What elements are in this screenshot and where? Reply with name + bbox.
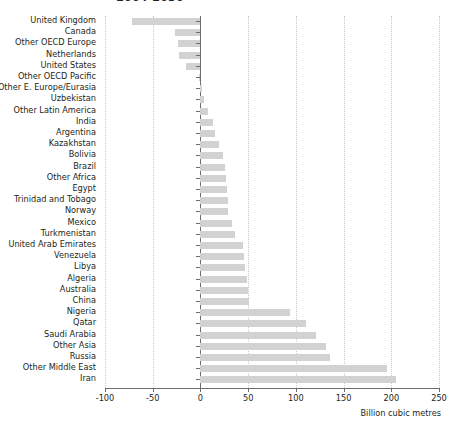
row-tick	[196, 55, 200, 56]
bar-row	[105, 38, 439, 49]
gas-production-change-chart: 2004-2030 United KingdomCanadaOther OECD…	[0, 0, 451, 428]
bar-egypt	[200, 186, 227, 193]
row-tick	[196, 335, 200, 336]
bar-row	[105, 72, 439, 83]
row-tick	[196, 200, 200, 201]
bar-row	[105, 251, 439, 262]
bar-row	[105, 162, 439, 173]
bar-row	[105, 296, 439, 307]
plot-area	[105, 16, 439, 388]
x-tick-0	[200, 388, 201, 392]
row-tick	[196, 323, 200, 324]
bar-brazil	[200, 164, 225, 171]
bar-turkmenistan	[200, 231, 234, 238]
row-tick	[196, 267, 200, 268]
x-tick-label--50: -50	[146, 393, 159, 403]
category-label-egypt: Egypt	[72, 183, 96, 194]
bar-row	[105, 195, 439, 206]
category-label-canada: Canada	[65, 26, 96, 37]
row-tick	[196, 32, 200, 33]
bar-row	[105, 330, 439, 341]
row-tick	[196, 167, 200, 168]
x-axis-title: Billion cubic metres	[361, 408, 442, 418]
bar-other-latin-america	[200, 108, 208, 115]
bar-row	[105, 307, 439, 318]
row-tick	[196, 301, 200, 302]
x-tick-50	[248, 388, 249, 392]
row-tick	[196, 279, 200, 280]
bar-row	[105, 106, 439, 117]
bar-other-asia	[200, 343, 326, 350]
row-tick	[196, 155, 200, 156]
category-label-other-africa: Other Africa	[47, 172, 96, 183]
bar-row	[105, 117, 439, 128]
category-label-mexico: Mexico	[67, 217, 96, 228]
bar-row	[105, 50, 439, 61]
row-tick	[196, 77, 200, 78]
row-tick	[196, 357, 200, 358]
x-tick-label--100: -100	[96, 393, 115, 403]
category-label-australia: Australia	[60, 284, 96, 295]
bar-row	[105, 128, 439, 139]
row-tick	[196, 122, 200, 123]
category-label-other-e-europe-eurasia: Other E. Europe/Eurasia	[0, 82, 96, 93]
bar-venezuela	[200, 253, 244, 260]
row-tick	[196, 99, 200, 100]
row-tick	[196, 346, 200, 347]
category-label-other-asia: Other Asia	[53, 340, 96, 351]
bar-bolivia	[200, 152, 223, 159]
bar-row	[105, 218, 439, 229]
category-label-other-oecd-europe: Other OECD Europe	[15, 37, 96, 48]
x-tick-label-100: 100	[288, 393, 304, 403]
bar-russia	[200, 354, 330, 361]
x-tick-100	[296, 388, 297, 392]
category-label-trinidad-and-tobago: Trinidad and Tobago	[14, 194, 96, 205]
x-tick-label-250: 250	[431, 393, 447, 403]
row-tick	[196, 290, 200, 291]
category-label-algeria: Algeria	[67, 273, 96, 284]
row-tick	[196, 189, 200, 190]
bar-row	[105, 318, 439, 329]
category-label-united-states: United States	[41, 60, 96, 71]
row-tick	[196, 43, 200, 44]
bar-row	[105, 374, 439, 385]
bar-row	[105, 94, 439, 105]
x-axis-line	[105, 388, 439, 389]
category-label-other-latin-america: Other Latin America	[14, 105, 96, 116]
category-axis-labels: United KingdomCanadaOther OECD EuropeNet…	[0, 16, 100, 388]
bar-argentina	[200, 130, 214, 137]
bar-row	[105, 274, 439, 285]
category-label-uzbekistan: Uzbekistan	[51, 93, 96, 104]
row-tick	[196, 368, 200, 369]
bar-china	[200, 298, 249, 305]
category-label-kazakhstan: Kazakhstan	[49, 138, 96, 149]
x-tick-label-50: 50	[243, 393, 253, 403]
bar-australia	[200, 287, 248, 294]
bar-row	[105, 139, 439, 150]
row-tick	[196, 21, 200, 22]
bar-row	[105, 27, 439, 38]
chart-title: 2004-2030	[0, 0, 300, 4]
bar-row	[105, 240, 439, 251]
category-label-iran: Iran	[80, 373, 96, 384]
category-label-libya: Libya	[74, 261, 96, 272]
bar-norway	[200, 208, 228, 215]
category-label-china: China	[73, 295, 96, 306]
row-tick	[196, 144, 200, 145]
x-tick-label-150: 150	[336, 393, 352, 403]
category-label-argentina: Argentina	[56, 127, 96, 138]
category-label-russia: Russia	[70, 351, 96, 362]
x-tick-150	[344, 388, 345, 392]
bar-algeria	[200, 276, 247, 283]
category-label-bolivia: Bolivia	[69, 149, 96, 160]
bar-row	[105, 150, 439, 161]
bar-uzbekistan	[200, 96, 204, 103]
category-label-nigeria: Nigeria	[67, 306, 96, 317]
category-label-saudi-arabia: Saudi Arabia	[44, 329, 96, 340]
bar-united-arab-emirates	[200, 242, 243, 249]
category-label-turkmenistan: Turkmenistan	[41, 228, 96, 239]
bar-row	[105, 229, 439, 240]
row-tick	[196, 88, 200, 89]
bar-other-middle-east	[200, 365, 387, 372]
row-tick	[196, 223, 200, 224]
